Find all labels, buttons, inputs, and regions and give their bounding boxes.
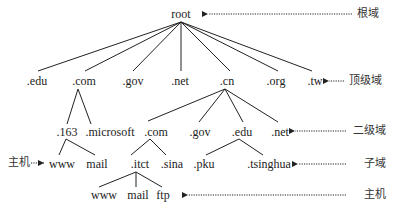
node-cn-gov: .gov (190, 126, 211, 138)
node-tld-tw: .tw (308, 75, 323, 87)
node-cn-net: .net (271, 126, 289, 138)
itct-edges (99, 172, 162, 187)
label-host-right: 主机 (364, 189, 386, 200)
node-tld-net: .net (171, 75, 189, 87)
com-edges (67, 89, 91, 124)
node-pku: .pku (194, 158, 215, 170)
node-tld-edu: .edu (27, 75, 47, 87)
node-itct: .itct (131, 158, 149, 170)
node-tld-gov: .gov (123, 75, 144, 87)
node-163-mail: mail (86, 158, 107, 170)
node-itct-mail: mail (127, 189, 148, 201)
node-tsinghua: .tsinghua (247, 158, 291, 170)
node-itct-ftp: ftp (156, 189, 169, 201)
node-microsoft: .microsoft (86, 126, 135, 138)
node-itct-www: www (91, 189, 117, 201)
tree-edges (0, 0, 393, 216)
label-subdomain: 子域 (364, 158, 386, 169)
node-163-www: www (49, 158, 75, 170)
dns-hierarchy-diagram: root .edu .com .gov .net .cn .org .tw .1… (0, 0, 393, 216)
node-root: root (171, 8, 190, 20)
node-tld-com: .com (72, 75, 96, 87)
cn-com-edges (131, 139, 166, 155)
label-second-level-domain: 二级域 (353, 125, 386, 136)
node-163: .163 (57, 126, 78, 138)
node-tld-cn: .cn (220, 75, 234, 87)
cn-edges (148, 89, 278, 122)
annotation-arrows (31, 14, 352, 195)
163-edges (59, 139, 95, 155)
root-edges (38, 22, 312, 71)
node-tld-org: .org (267, 75, 286, 87)
node-cn-edu: .edu (232, 126, 252, 138)
cn-edu-edges (206, 139, 263, 155)
label-top-level-domain: 顶级域 (349, 75, 382, 86)
label-root-domain: 根域 (357, 8, 379, 19)
node-cn-com: .com (144, 126, 168, 138)
label-host-left: 主机 (8, 157, 30, 168)
node-sina: .sina (161, 158, 183, 170)
